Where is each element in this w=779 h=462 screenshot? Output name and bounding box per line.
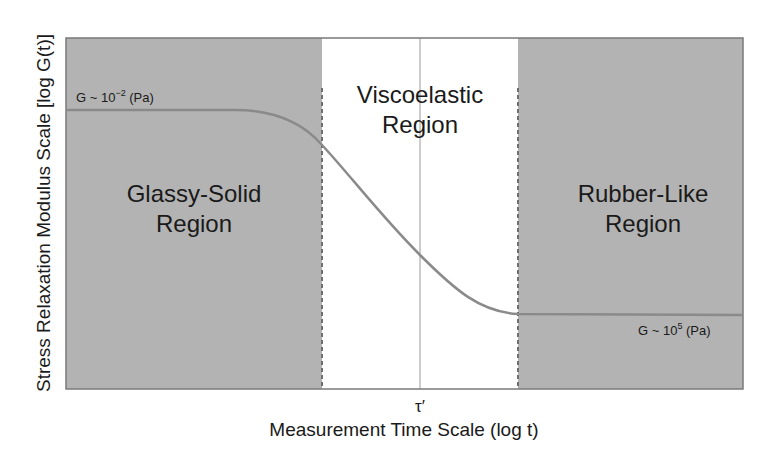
x-axis-label: Measurement Time Scale (log t) xyxy=(269,419,538,440)
viscoelastic-region-label-line2: Region xyxy=(382,111,458,138)
upper-plateau-annotation: G ~ 10−2 (Pa) xyxy=(76,88,154,105)
viscoelastic-region-label-line1: Viscoelastic xyxy=(357,81,483,108)
relaxation-diagram: Glassy-Solid Region Viscoelastic Region … xyxy=(0,0,779,462)
tau-tick-label: τ′ xyxy=(415,397,425,416)
glassy-region-label-line1: Glassy-Solid xyxy=(127,180,262,207)
rubber-region-label-line1: Rubber-Like xyxy=(578,180,709,207)
rubber-region-label-line2: Region xyxy=(605,210,681,237)
lower-plateau-annotation: G ~ 105 (Pa) xyxy=(638,321,711,338)
glassy-region-label-line2: Region xyxy=(156,210,232,237)
y-axis-label: Stress Relaxation Modulus Scale [log G(t… xyxy=(33,34,54,392)
